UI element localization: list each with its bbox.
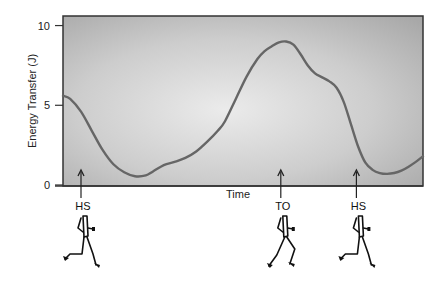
runner-front-leg	[87, 237, 96, 265]
runner-front-leg	[362, 237, 371, 265]
runner-back-arm	[278, 218, 283, 232]
runner-torso	[283, 216, 288, 237]
y-tick-label: 0	[44, 179, 50, 191]
runner-icon	[338, 216, 375, 268]
runner-back-arm	[78, 218, 83, 232]
runner-icon	[267, 216, 295, 268]
gait-event-label: HS	[75, 200, 90, 212]
runner-foot	[288, 262, 295, 267]
runner-icon	[63, 216, 100, 268]
gait-event-label: HS	[351, 200, 366, 212]
runner-hand	[92, 227, 95, 231]
runner-hand	[367, 227, 370, 231]
runner-back-leg	[269, 237, 285, 266]
runner-torso	[358, 216, 363, 237]
plot-area	[63, 16, 423, 186]
x-axis-label: Time	[226, 188, 250, 200]
energy-transfer-chart: 0510 Energy Transfer (J) Time HSTOHS	[0, 0, 443, 282]
y-tick-label: 10	[38, 20, 50, 32]
runner-hand	[292, 227, 295, 231]
gait-event-label: TO	[275, 200, 291, 212]
runner-front-leg	[287, 237, 295, 264]
y-tick-label: 5	[44, 99, 50, 111]
runner-back-arm	[353, 218, 358, 232]
runner-torso	[83, 216, 88, 237]
runner-back-leg	[340, 237, 359, 259]
runner-back-leg	[65, 237, 84, 259]
runner-foot	[369, 263, 375, 268]
y-axis-label: Energy Transfer (J)	[26, 54, 38, 148]
runner-foot	[94, 263, 100, 268]
